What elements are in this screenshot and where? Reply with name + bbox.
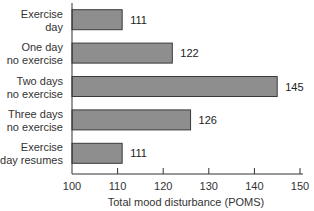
x-tick-label: 110 xyxy=(109,180,127,192)
category-label: Exerciseday xyxy=(21,8,64,33)
x-tick-label: 120 xyxy=(154,180,172,192)
bar xyxy=(72,10,122,30)
value-label: 122 xyxy=(180,47,198,59)
category-label: One dayno exercise xyxy=(7,41,64,66)
bar xyxy=(72,77,277,97)
value-label: 126 xyxy=(199,114,217,126)
x-tick-label: 100 xyxy=(63,180,81,192)
value-label: 145 xyxy=(285,81,303,93)
value-label: 111 xyxy=(130,14,147,26)
bar-chart: ExercisedayOne dayno exerciseTwo daysno … xyxy=(0,0,314,211)
x-tick-label: 150 xyxy=(291,180,309,192)
x-tick-label: 140 xyxy=(245,180,263,192)
value-label: 111 xyxy=(130,147,147,159)
x-axis-title: Total mood disturbance (POMS) xyxy=(108,196,265,208)
category-labels: ExercisedayOne dayno exerciseTwo daysno … xyxy=(0,8,63,167)
category-label: Two daysno exercise xyxy=(7,75,64,100)
bar xyxy=(72,43,172,63)
bar xyxy=(72,143,122,163)
category-label: Exerciseday resumes xyxy=(0,141,63,166)
category-label: Three daysno exercise xyxy=(7,108,64,133)
bars-group xyxy=(72,10,277,164)
x-ticks: 100110120130140150 xyxy=(63,168,309,192)
bar xyxy=(72,110,191,130)
x-tick-label: 130 xyxy=(200,180,218,192)
